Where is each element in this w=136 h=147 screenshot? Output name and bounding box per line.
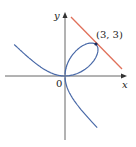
folium-chart: (3, 3) x y 0 xyxy=(0,0,136,147)
origin-label: 0 xyxy=(56,78,62,89)
y-axis-label: y xyxy=(53,10,60,21)
x-axis-label: x xyxy=(122,79,128,90)
y-axis-arrow-icon xyxy=(63,12,68,18)
point-label: (3, 3) xyxy=(96,29,123,40)
tangent-point xyxy=(94,42,97,45)
x-axis-arrow-icon xyxy=(121,74,127,79)
